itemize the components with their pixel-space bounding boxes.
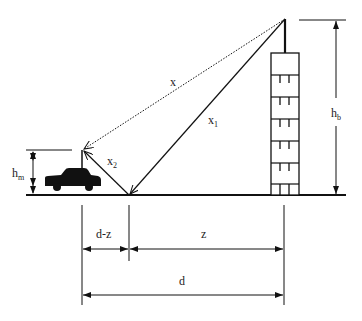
reflected-ray-x1: [130, 19, 285, 194]
label-z: z: [201, 227, 206, 241]
label-x: x: [170, 75, 176, 89]
label-x2: x2: [107, 154, 117, 170]
building-icon: [271, 53, 299, 195]
label-hm: hm: [12, 166, 25, 182]
diagram-canvas: x x1 x2 hm hb d-z z d: [0, 0, 362, 321]
label-x1: x1: [208, 113, 218, 129]
label-hb: hb: [331, 106, 341, 122]
two-ray-diagram: x x1 x2 hm hb d-z z d: [0, 0, 362, 321]
label-d: d: [179, 274, 185, 288]
direct-ray-x: [84, 19, 285, 149]
label-d-minus-z: d-z: [96, 227, 111, 241]
car-icon: [45, 168, 101, 191]
